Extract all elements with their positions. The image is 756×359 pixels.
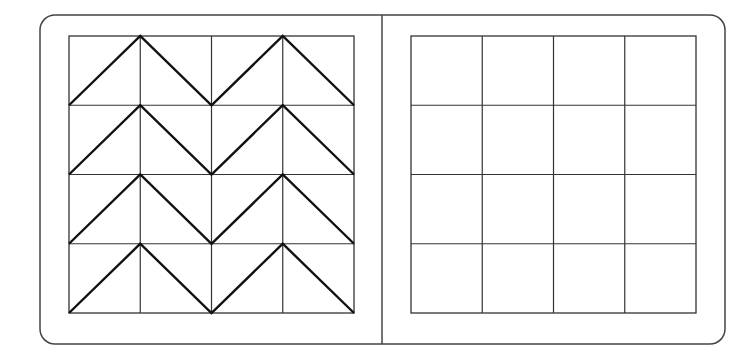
outer-frame <box>40 15 725 344</box>
right-empty-grid <box>411 36 696 313</box>
quilt-pattern-diagram <box>0 0 756 359</box>
left-chevron-grid <box>69 36 354 313</box>
